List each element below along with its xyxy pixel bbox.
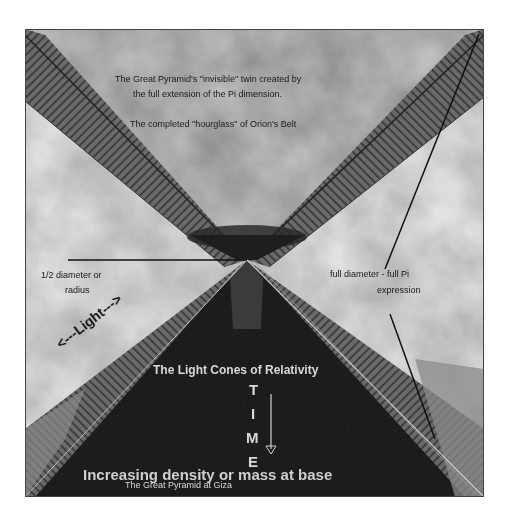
diameter-label-line1: full diameter - full Pi [330,269,409,279]
hourglass-diagram: The Great Pyramid's "invisible" twin cre… [25,29,484,497]
time-letter-m: M [246,429,259,446]
time-letter-t: T [249,381,258,398]
radius-label-line2: radius [65,285,90,295]
light-cones-label: The Light Cones of Relativity [153,363,318,377]
diameter-label-line2: expression [377,285,421,295]
time-letter-i: I [251,405,255,422]
diagram-graphic [25,29,484,497]
radius-label-line1: 1/2 diameter or [41,270,102,280]
upper-label-line3: The completed "hourglass" of Orion's Bel… [130,119,296,129]
upper-label-line2: the full extension of the Pi dimension. [133,89,282,99]
bottom-caption: Increasing density or mass at base [83,466,332,483]
upper-label-line1: The Great Pyramid's "invisible" twin cre… [115,74,301,84]
